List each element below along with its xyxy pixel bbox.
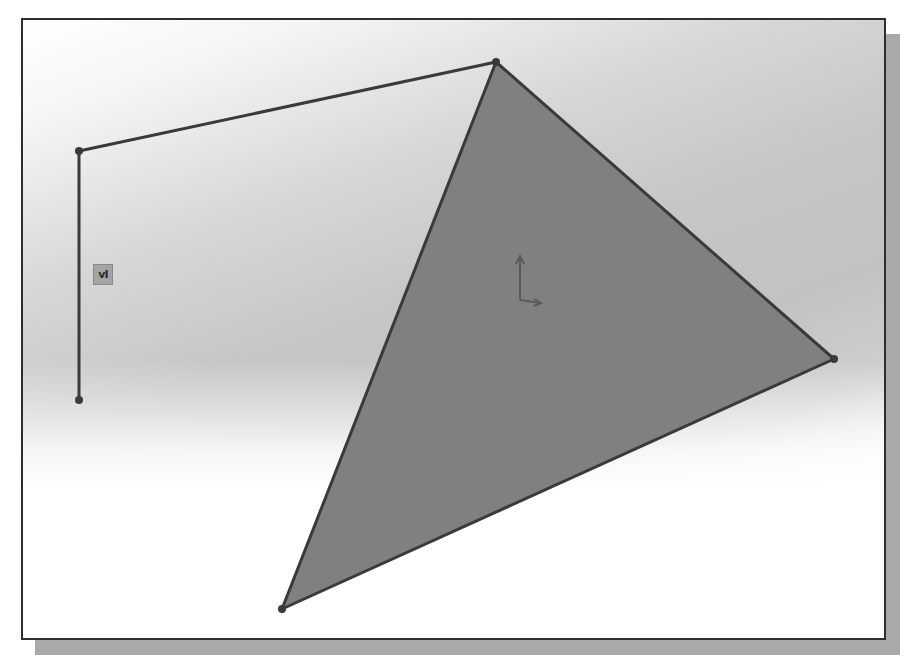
triangle-sketch-region[interactable] [282,62,834,609]
sketch-canvas[interactable] [0,0,916,670]
vertical-relation-icon[interactable]: vI [93,264,113,285]
sketch-figure: vI [0,0,916,670]
triangle-top-point[interactable] [492,58,500,66]
vertical-line-bottom-point[interactable] [75,396,83,404]
vertical-line-top-point[interactable] [75,147,83,155]
triangle-bottom-point[interactable] [278,605,286,613]
triangle-right-point[interactable] [830,355,838,363]
